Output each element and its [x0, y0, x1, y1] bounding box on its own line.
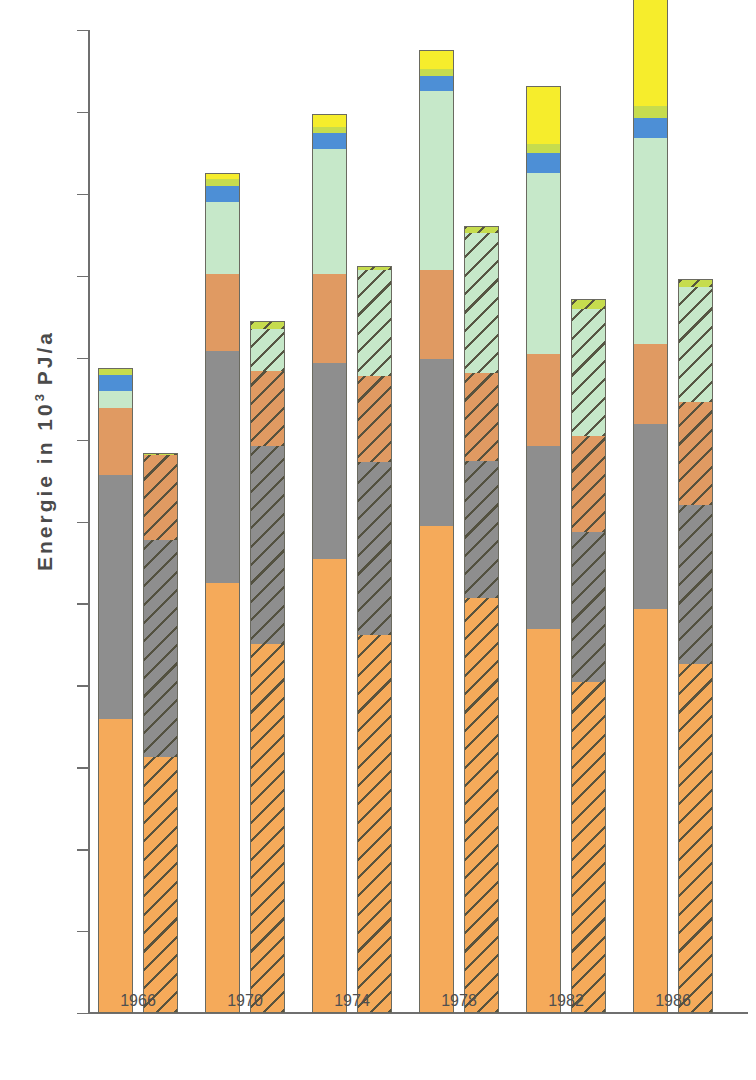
y-axis-line: [88, 30, 90, 1013]
bar-1974-right: [357, 266, 392, 1013]
bar-segment-gray: [571, 531, 606, 683]
bar-segment-yellow: [205, 173, 240, 180]
bar-segment-yellowgreen: [205, 178, 240, 186]
bar-segment-brown: [633, 343, 668, 424]
bar-segment-orange: [143, 756, 178, 1013]
bar-segment-orange: [678, 663, 713, 1013]
bar-segment-yellowgreen: [571, 299, 606, 309]
bar-segment-yellowgreen: [143, 453, 178, 455]
y-axis-title-main: Energie in 10: [33, 401, 56, 571]
bar-segment-lightgreen: [357, 269, 392, 375]
bar-segment-orange: [312, 558, 347, 1013]
y-tick: [77, 522, 88, 523]
bar-segment-lightgreen: [205, 200, 240, 274]
y-tick: [77, 276, 88, 277]
bar-segment-gray: [312, 362, 347, 559]
y-axis-title: Energie in 103 PJ/a: [32, 271, 57, 631]
bar-segment-orange: [633, 608, 668, 1013]
bar-segment-brown: [98, 407, 133, 475]
bar-segment-orange: [205, 582, 240, 1013]
bar-1966-right: [143, 453, 178, 1013]
bar-segment-brown: [526, 353, 561, 446]
bar-segment-yellowgreen: [98, 368, 133, 375]
y-axis-title-unit: PJ/a: [33, 330, 56, 394]
bar-segment-blue: [205, 185, 240, 201]
y-axis-title-exponent: 3: [32, 394, 47, 401]
x-tick-label-1986: 1986: [613, 992, 733, 1010]
bar-segment-gray: [678, 504, 713, 665]
bar-segment-brown: [205, 273, 240, 351]
bar-segment-blue: [312, 132, 347, 149]
bar-segment-orange: [98, 718, 133, 1013]
bar-segment-yellow: [312, 114, 347, 127]
bar-1966-left: [98, 368, 133, 1013]
y-tick: [77, 112, 88, 113]
y-tick: [77, 931, 88, 932]
bar-segment-gray: [250, 445, 285, 644]
bar-1970-right: [250, 321, 285, 1013]
bar-1986-right: [678, 279, 713, 1013]
y-tick: [77, 849, 88, 850]
y-tick: [77, 358, 88, 359]
plot-area: 0123456789101112: [88, 30, 748, 1013]
bar-segment-blue: [419, 75, 454, 91]
bar-segment-gray: [633, 423, 668, 609]
y-tick: [77, 1013, 88, 1014]
bar-segment-lightgreen: [571, 308, 606, 437]
bar-segment-orange: [464, 597, 499, 1013]
x-tick-label-1978: 1978: [399, 992, 519, 1010]
y-tick: [77, 767, 88, 768]
bar-segment-yellowgreen: [464, 226, 499, 233]
bar-1986-left: [633, 0, 668, 1013]
bar-1978-right: [464, 226, 499, 1013]
y-tick: [77, 440, 88, 441]
bar-segment-blue: [526, 152, 561, 172]
bar-segment-yellowgreen: [250, 321, 285, 328]
bar-segment-brown: [419, 269, 454, 359]
bar-segment-yellowgreen: [419, 67, 454, 75]
bar-1970-left: [205, 173, 240, 1013]
bar-1974-left: [312, 114, 347, 1013]
bar-segment-gray: [464, 460, 499, 598]
bar-segment-gray: [205, 350, 240, 583]
bar-segment-yellowgreen: [312, 126, 347, 133]
x-tick-label-1974: 1974: [292, 992, 412, 1010]
bar-segment-brown: [571, 435, 606, 532]
bar-segment-orange: [571, 681, 606, 1013]
bar-1978-left: [419, 50, 454, 1013]
chart-figure: Energie in 103 PJ/a 0123456789101112 196…: [0, 0, 756, 1080]
bar-segment-lightgreen: [312, 148, 347, 274]
y-tick: [77, 194, 88, 195]
bar-segment-brown: [250, 370, 285, 446]
bar-segment-orange: [250, 643, 285, 1013]
bar-segment-gray: [419, 358, 454, 526]
x-tick-label-1970: 1970: [185, 992, 305, 1010]
x-tick-label-1982: 1982: [506, 992, 626, 1010]
bar-segment-lightgreen: [98, 390, 133, 408]
bar-segment-gray: [357, 461, 392, 635]
y-tick: [77, 603, 88, 604]
bar-segment-brown: [143, 454, 178, 540]
bar-segment-yellow: [526, 86, 561, 144]
x-tick-label-1966: 1966: [78, 992, 198, 1010]
bar-segment-gray: [526, 445, 561, 629]
bar-segment-blue: [98, 374, 133, 390]
bar-segment-lightgreen: [464, 232, 499, 374]
y-tick: [77, 685, 88, 686]
bar-segment-yellow: [633, 0, 668, 106]
bar-segment-yellow: [419, 50, 454, 69]
bar-segment-blue: [633, 117, 668, 137]
bar-segment-yellowgreen: [678, 279, 713, 286]
bar-segment-orange: [357, 634, 392, 1013]
bar-segment-yellowgreen: [526, 143, 561, 154]
bar-segment-lightgreen: [250, 327, 285, 370]
bar-segment-lightgreen: [526, 172, 561, 355]
bar-segment-orange: [419, 525, 454, 1013]
bar-segment-gray: [143, 539, 178, 757]
bar-1982-right: [571, 299, 606, 1013]
bar-segment-yellowgreen: [633, 105, 668, 118]
bar-segment-brown: [312, 273, 347, 363]
bar-segment-yellowgreen: [357, 266, 392, 270]
bar-segment-lightgreen: [419, 90, 454, 270]
bar-segment-brown: [678, 401, 713, 505]
